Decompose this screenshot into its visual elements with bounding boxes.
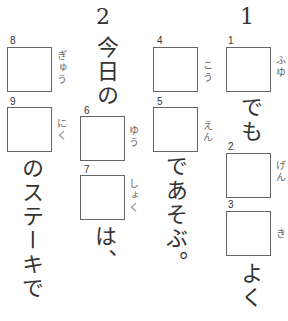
reading-2: げん — [274, 160, 284, 184]
reading-6: ゆう — [127, 125, 137, 149]
box-label-5: 5 — [157, 97, 163, 107]
answer-box-3[interactable] — [226, 211, 271, 256]
answer-box-2[interactable] — [226, 153, 271, 198]
text-yoku: よく — [238, 262, 260, 310]
answer-box-9[interactable] — [7, 107, 52, 152]
reading-8: ぎゅう — [55, 50, 65, 86]
box-label-9: 9 — [10, 97, 16, 107]
reading-1: ふゆ — [274, 55, 284, 79]
box-label-4: 4 — [157, 36, 163, 46]
answer-box-7[interactable] — [80, 175, 125, 220]
text-demo: でも — [238, 96, 260, 144]
reading-7: しょく — [127, 178, 137, 214]
answer-box-5[interactable] — [153, 107, 198, 152]
reading-3: き — [274, 228, 284, 240]
box-label-6: 6 — [84, 106, 90, 116]
question-number-1: 1 — [240, 6, 254, 28]
reading-4: こう — [201, 60, 211, 84]
question-number-2: 2 — [96, 6, 110, 28]
reading-5: えん — [201, 120, 211, 144]
box-label-7: 7 — [84, 165, 90, 175]
box-label-1: 1 — [228, 36, 234, 46]
box-label-8: 8 — [10, 36, 16, 46]
text-nosuteekide: のステーキで — [19, 157, 41, 301]
answer-box-4[interactable] — [153, 47, 198, 92]
text-wa: は、 — [92, 225, 114, 273]
answer-box-8[interactable] — [7, 47, 52, 92]
answer-box-1[interactable] — [226, 47, 271, 92]
reading-9: にく — [55, 118, 65, 142]
text-deasobu: であそぶ。 — [163, 155, 185, 275]
box-label-2: 2 — [228, 142, 234, 152]
box-label-3: 3 — [228, 200, 234, 210]
answer-box-6[interactable] — [80, 116, 125, 161]
text-kyouno: 今日の — [94, 36, 116, 108]
